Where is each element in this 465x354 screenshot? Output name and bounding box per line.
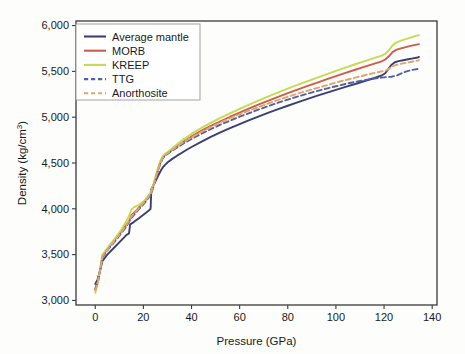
x-tick-label: 100 [327,311,345,323]
chart-figure: 3,0003,5004,0004,5005,0005,5006,000 0204… [0,0,465,354]
y-tick-label: 3,000 [41,294,69,306]
x-tick-label: 80 [282,311,294,323]
x-tick-label: 140 [423,311,441,323]
chart-legend: Average mantleMORBKREEPTTGAnorthosite [76,24,200,100]
y-axis-title-tail: ) [16,121,28,125]
x-tick-label: 0 [92,311,98,323]
density-pressure-line-chart: 3,0003,5004,0004,5005,0005,5006,000 0204… [0,0,465,354]
y-axis-title-main: Density (kg/cm [16,129,28,205]
x-axis-ticks: 020406080100120140 [92,305,441,323]
y-tick-label: 4,500 [41,157,69,169]
legend-label-anorthosite: Anorthosite [112,87,168,99]
y-tick-label: 5,000 [41,111,69,123]
legend-label-ttg: TTG [112,73,134,85]
axis-titles: Pressure (GPa)Density (kg/cm3) [15,121,297,347]
y-axis-ticks: 3,0003,5004,0004,5005,0005,5006,000 [41,19,76,306]
x-tick-label: 20 [137,311,149,323]
y-tick-label: 3,500 [41,248,69,260]
y-axis-title: Density (kg/cm3) [15,121,28,206]
legend-label-average-mantle: Average mantle [112,31,189,43]
legend-label-morb: MORB [112,45,145,57]
x-tick-label: 60 [234,311,246,323]
x-tick-label: 120 [375,311,393,323]
y-tick-label: 5,500 [41,65,69,77]
x-tick-label: 40 [185,311,197,323]
legend-label-kreep: KREEP [112,59,149,71]
y-tick-label: 4,000 [41,203,69,215]
x-axis-title: Pressure (GPa) [217,335,297,347]
y-tick-label: 6,000 [41,19,69,31]
